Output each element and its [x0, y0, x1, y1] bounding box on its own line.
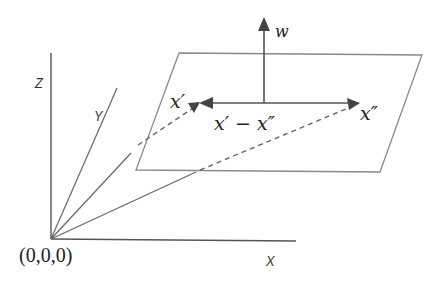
hyperplane: [136, 53, 422, 172]
point-x-double-prime-label: x″: [360, 104, 378, 123]
point-x-prime-label: x′: [170, 92, 185, 111]
y-axis-label: Y: [94, 108, 103, 123]
x-axis-label: X: [266, 253, 275, 268]
y-axis: [51, 88, 117, 239]
x-axis: [51, 239, 296, 241]
ray-to-x-prime-solid: [51, 153, 131, 239]
x-prime-arrowhead-icon: [188, 102, 200, 113]
normal-vector-label: w: [275, 24, 289, 40]
origin-label: (0,0,0): [19, 245, 72, 265]
ray-to-x-double-prime-solid: [51, 172, 196, 239]
difference-vector-left-arrowhead-icon: [199, 97, 213, 109]
z-axis-label: Z: [35, 75, 43, 90]
difference-vector-label: x′ − x″: [214, 114, 275, 133]
normal-vector-w-arrowhead-icon: [258, 17, 270, 31]
difference-vector-right-arrowhead-icon: [347, 98, 360, 110]
ray-to-x-prime-dashed: [138, 106, 196, 145]
